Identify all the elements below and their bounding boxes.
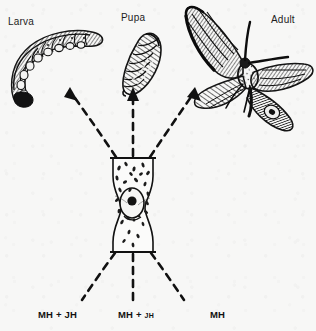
hormone-main-right: MH [210, 309, 225, 320]
caterpillar-icon [12, 31, 103, 108]
arrow-to-larva [72, 94, 116, 157]
hormone-main-center: MH + [118, 309, 145, 320]
stage-label-larva: Larva [8, 16, 34, 27]
line-from-mh-jh-left [82, 253, 115, 300]
hormone-label-mh-jh-center: MH + JH [118, 309, 154, 320]
hormone-label-mh-jh-left: MH + JH [38, 309, 77, 320]
hormone-sub-left: JH [65, 309, 78, 320]
gland-nucleolus [127, 196, 136, 205]
moth-antenna-right [249, 57, 288, 63]
arrowhead-larva [64, 87, 78, 101]
stage-label-adult: Adult [271, 14, 295, 25]
incoming-arrows [82, 253, 184, 300]
outgoing-arrows [72, 94, 193, 157]
hormone-sub-center: JH [145, 312, 154, 319]
hormone-main-left: MH + [38, 309, 65, 320]
arrow-to-adult [150, 94, 193, 157]
hormone-label-mh-right: MH [210, 309, 225, 320]
moth-antenna-left [245, 22, 250, 60]
outgoing-arrowheads [64, 87, 201, 101]
endocrine-gland [110, 158, 156, 252]
chrysalis-icon [123, 33, 161, 96]
stage-label-pupa: Pupa [121, 12, 145, 23]
diagram-artwork [0, 0, 316, 331]
moth-icon [186, 7, 313, 131]
metamorphosis-diagram: Larva Pupa Adult MH + JH MH + JH MH [0, 0, 316, 331]
line-from-mh-right [151, 253, 184, 300]
